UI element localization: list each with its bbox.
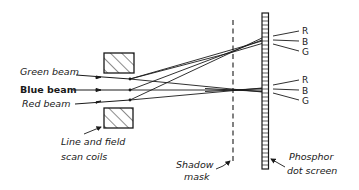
top-scan-coil [104, 53, 134, 73]
lower-b-label: B [302, 86, 308, 96]
blue-beam-label: Blue beam [20, 84, 77, 95]
mask-pointer-arrow [216, 161, 230, 169]
coils-label-line2: scan coils [61, 151, 107, 162]
screen-pointer-arrow [271, 159, 285, 167]
coils-pointer-arrow [84, 127, 101, 134]
screen-label-line1: Phosphor [289, 151, 334, 162]
red-beam-line [75, 100, 130, 104]
mask-label-line2: mask [184, 171, 210, 182]
mask-label-line1: Shadow [176, 159, 214, 170]
shadow-mask-diagram: R B G R B G Green beam Blue beam Red bea… [0, 0, 359, 190]
red-beam-label: Red beam [22, 98, 70, 109]
upper-b-label: B [302, 37, 308, 47]
green-beam-label: Green beam [20, 66, 79, 77]
upper-dot-group-labels: R B G [302, 26, 309, 57]
incoming-beams [73, 75, 130, 104]
coils-label-line1: Line and field [61, 136, 126, 147]
upper-g-label: G [302, 47, 309, 57]
upper-r-label: R [302, 26, 308, 36]
lower-dot-group-labels: R B G [302, 75, 309, 106]
lower-g-label: G [302, 96, 309, 106]
lower-r-label: R [302, 75, 308, 85]
bottom-scan-coil [104, 108, 133, 128]
green-beam-line [76, 75, 130, 79]
screen-label-line2: dot screen [287, 165, 337, 176]
phosphor-dot-screen [262, 13, 269, 169]
rgb-leaders [273, 31, 299, 100]
